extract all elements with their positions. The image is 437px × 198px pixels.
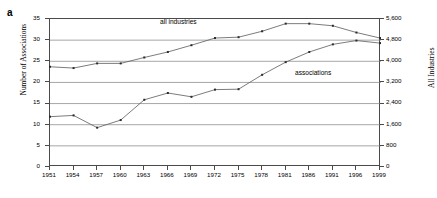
x-tick-mark [355,166,356,170]
y-left-tick-mark [45,124,49,125]
y-right-tick-mark [380,124,384,125]
x-tick-mark [261,166,262,170]
x-tick-mark [379,166,380,170]
y-right-tick-mark [380,39,384,40]
x-tick-mark [332,166,333,170]
y-left-tick-label: 25 [14,57,40,63]
markers-associations [49,40,381,129]
x-tick-mark [143,166,144,170]
y-left-tick-label: 0 [14,163,40,169]
y-left-tick-mark [45,60,49,61]
y-right-tick-mark [380,18,384,19]
x-tick-mark [214,166,215,170]
y-right-tick-label: 2,400 [386,99,416,105]
y-right-tick-label: 4,800 [386,36,416,42]
y-right-tick-mark [380,60,384,61]
gridlines [50,40,381,146]
markers-all-industries [49,23,381,69]
annotation-associations: associations [295,70,331,77]
y-right-tick-mark [380,145,384,146]
y-right-tick-label: 5,600 [386,15,416,21]
x-tick-mark [285,166,286,170]
x-tick-mark [167,166,168,170]
y-left-tick-label: 30 [14,36,40,42]
y-right-tick-label: 3,200 [386,78,416,84]
panel-label: a [7,8,13,18]
y-left-tick-mark [45,103,49,104]
plot-area [49,18,380,166]
y-left-tick-label: 10 [14,121,40,127]
x-tick-mark [308,166,309,170]
y-left-tick-mark [45,81,49,82]
y-right-tick-label: 800 [386,142,416,148]
y-left-tick-mark [45,18,49,19]
figure-panel: a Number of Associations All Industries … [0,0,437,198]
y-right-tick-label: 0 [386,163,416,169]
annotation-all-industries: all industries [160,19,197,26]
series-canvas [50,19,381,167]
y-left-tick-label: 15 [14,99,40,105]
x-tick-mark [238,166,239,170]
x-tick-mark [73,166,74,170]
y-right-tick-label: 1,600 [386,121,416,127]
x-tick-mark [49,166,50,170]
y-left-tick-label: 20 [14,78,40,84]
y-right-tick-mark [380,81,384,82]
y-left-tick-mark [45,39,49,40]
line-associations [50,41,380,128]
y-right-tick-label: 4,000 [386,57,416,63]
x-tick-mark [96,166,97,170]
y-right-tick-mark [380,166,384,167]
x-tick-label: 1999 [364,172,394,178]
y-axis-right-title: All Industries [428,8,435,128]
y-left-tick-label: 5 [14,142,40,148]
y-left-tick-label: 35 [14,15,40,21]
x-tick-mark [190,166,191,170]
y-left-tick-mark [45,145,49,146]
y-right-tick-mark [380,103,384,104]
x-tick-mark [120,166,121,170]
